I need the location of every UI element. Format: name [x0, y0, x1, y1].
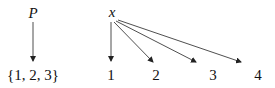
mapping-diagram: P x {1, 2, 3} 1 2 3 4 [0, 0, 275, 88]
target-label-3: 3 [209, 68, 217, 83]
arrow-4 [118, 20, 241, 62]
source-label-P: P [28, 6, 37, 21]
target-label-2: 2 [152, 68, 160, 83]
source-label-x: x [109, 5, 116, 20]
arrow-2 [114, 22, 153, 62]
target-label-1: 1 [107, 68, 115, 83]
arrow-3 [116, 21, 196, 62]
target-label-4: 4 [254, 68, 262, 83]
target-label-set: {1, 2, 3} [7, 68, 59, 83]
